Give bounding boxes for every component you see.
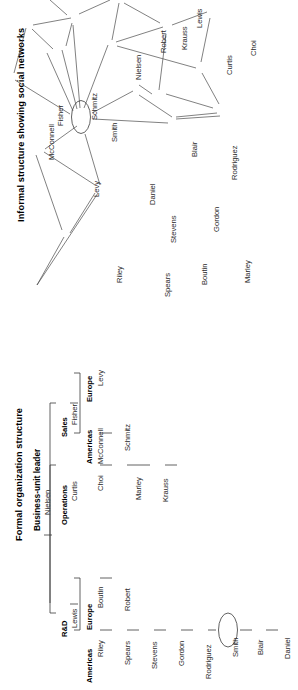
org-division-ops-label: Operations (60, 485, 69, 525)
network-node-krauss: Krauss (180, 26, 189, 50)
org-chart-panel: Formal organization structure Business-u… (0, 345, 298, 690)
org-rd-americas-member-gordon: Gordon (177, 641, 186, 666)
org-rd-americas-member-stevens: Stevens (150, 642, 159, 669)
network-node-blair: Blair (190, 142, 199, 157)
org-sales-americas-head: McConnell (96, 428, 105, 464)
org-rd-americas-head: Riley (96, 640, 105, 657)
network-node-schmitz: Schmitz (90, 93, 99, 120)
org-division-sales-leader: Fisher (70, 404, 79, 425)
org-ops-member-krauss: Krauss (161, 478, 170, 502)
org-division-sales-label: Sales (60, 417, 69, 437)
org-rd-americas-member-rodriguez: Rodriguez (204, 644, 213, 679)
org-sales-americas-label: Americas (85, 430, 94, 464)
org-rd-americas-member-spears: Spears (123, 641, 132, 665)
org-sales-europe-head: Levy (96, 370, 105, 386)
network-node-mcconnell: McConnell (47, 124, 56, 160)
org-sales-europe-label: Europe (85, 376, 94, 402)
network-node-spears: Spears (163, 273, 172, 297)
org-rd-americas-member-smith: Smith (231, 638, 240, 657)
network-node-choi: Choi (249, 40, 258, 56)
org-rd-europe-head: Boutin (96, 586, 105, 608)
org-rd-europe-member-robert: Robert (123, 588, 132, 611)
network-node-boutin: Boutin (200, 263, 209, 285)
org-division-rd-label: R&D (60, 621, 69, 637)
network-node-daniel: Daniel (148, 183, 157, 205)
org-division-rd-leader: Lewis (70, 609, 79, 628)
network-node-lewis: Lewis (195, 9, 204, 28)
network-node-smith: Smith (110, 123, 119, 142)
network-node-fisher: Fisher (56, 105, 65, 126)
informal-network-panel: Informal structure showing social networ… (0, 0, 298, 345)
network-node-curtis: Curtis (225, 55, 234, 75)
network-node-riley: Riley (115, 266, 124, 283)
network-smith-highlight-ring (72, 101, 91, 134)
org-sales-americas-member-schmitz: Schmitz (123, 424, 132, 451)
network-node-marley: Marley (243, 260, 252, 283)
network-node-nielsen: Nielsen (134, 55, 143, 80)
org-connectors (0, 345, 298, 690)
org-rd-europe-label: Europe (85, 604, 94, 630)
network-node-levy: Levy (92, 181, 101, 197)
figure-canvas: Informal structure showing social networ… (0, 0, 298, 690)
network-node-gordon: Gordon (212, 207, 221, 232)
network-node-robert: Robert (159, 30, 168, 53)
org-division-ops-leader: Curtis (70, 481, 79, 501)
org-ops-head-choi: Choi (96, 475, 105, 491)
org-rd-americas-member-daniel: Daniel (283, 637, 292, 659)
org-rd-americas-member-blair: Blair (256, 640, 265, 655)
org-ops-member-marley: Marley (134, 477, 143, 500)
network-node-stevens: Stevens (169, 216, 178, 243)
org-rd-americas-label: Americas (85, 649, 94, 683)
network-node-rodriguez: Rodriguez (230, 145, 239, 180)
